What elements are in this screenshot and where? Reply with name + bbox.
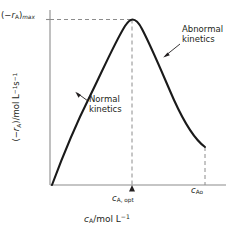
ylabel-units: /mol L (11, 94, 21, 120)
ylabel-open-paren: ( (11, 138, 21, 141)
annotation-normal-line1: Normal (89, 94, 120, 104)
xlabel-units: /mol L (93, 214, 121, 224)
annotation-normal-line2: kinetics (89, 104, 122, 114)
ylabel-s: s (11, 81, 21, 85)
ylabel-minus: − (11, 131, 21, 138)
x-axis-tick-label-ao: cAo (191, 186, 203, 196)
ylabel-sup-1a: −1 (12, 86, 18, 95)
ylabel-r: r (11, 128, 21, 132)
annotation-abnormal-line2: kinetics (182, 34, 215, 44)
x-axis-title: cA/mol L−1 (84, 213, 130, 224)
y-axis-max-tick-label: (−rA)max (1, 11, 35, 21)
annotation-abnormal-kinetics: Abnormalkinetics (182, 25, 223, 45)
y-axis-title: (−rA)/mol L−1s−1 (12, 59, 22, 155)
rate-vs-concentration-chart: (−rA)max (−rA)/mol L−1s−1 cA, opt cAo cA… (0, 0, 238, 241)
ylabel-sup-1b: −1 (12, 73, 18, 82)
abnormal-kinetics-leader-arrow-icon (163, 44, 180, 57)
x-axis-tick-label-opt: cA, opt (112, 194, 134, 204)
annotation-abnormal-line1: Abnormal (182, 24, 223, 34)
ymax-sub-max: max (22, 14, 35, 20)
xtick-ao-sub: Ao (196, 189, 203, 195)
x-axis-opt-marker-icon (129, 185, 135, 192)
xlabel-sup: −1 (121, 213, 130, 220)
annotation-normal-kinetics: Normalkinetics (89, 95, 122, 115)
ylabel-sub-a: A (16, 124, 22, 128)
normal-kinetics-leader-arrow-icon (75, 92, 88, 101)
ylabel-close-paren: ) (11, 120, 21, 123)
xtick-opt-sub: A, opt (117, 197, 134, 203)
